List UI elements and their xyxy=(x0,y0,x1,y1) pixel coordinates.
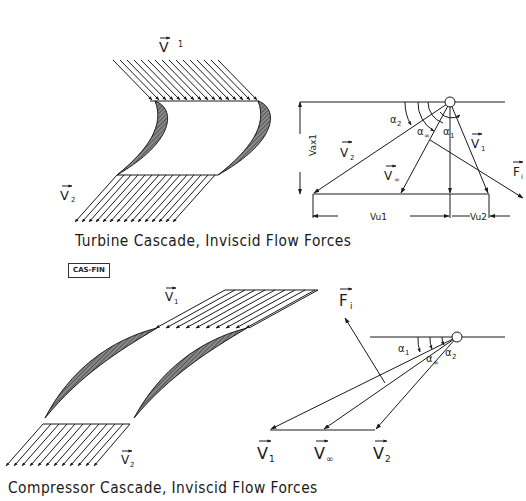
svg-text:2: 2 xyxy=(397,120,401,128)
svg-text:α: α xyxy=(390,114,397,125)
svg-text:∞: ∞ xyxy=(394,176,400,184)
svg-text:1: 1 xyxy=(405,349,409,357)
turbine-velocity-triangle xyxy=(300,102,523,218)
compressor-caption: Compressor Cascade, Inviscid Flow Forces xyxy=(8,479,318,497)
compressor-inlet-flow-lines xyxy=(156,290,318,328)
svg-text:1: 1 xyxy=(450,132,454,140)
cascade-diagram: V 1 V 2 xyxy=(0,0,526,501)
svg-text:α: α xyxy=(398,343,405,354)
turbine-outlet-flow-lines xyxy=(75,175,218,222)
compressor-cascade: V 1 V 2 F i α 1 α ∞ xyxy=(6,288,505,469)
compressor-pivot-point xyxy=(452,332,462,342)
svg-text:V: V xyxy=(471,137,480,151)
svg-text:V: V xyxy=(165,290,174,304)
compressor-blade-left xyxy=(45,328,157,418)
svg-text:V: V xyxy=(60,188,69,203)
svg-text:1: 1 xyxy=(178,40,183,49)
turbine-triangle-labels: Vax1 Vu1 Vu2 V 2 V ∞ V 1 F i α 2 α ∞ α 1 xyxy=(308,114,523,222)
compressor-outlet-label: V 2 xyxy=(121,451,134,469)
figure-tag: CAS-FIN xyxy=(68,263,110,278)
compressor-blade-right xyxy=(134,328,247,418)
svg-text:Vax1: Vax1 xyxy=(308,134,318,156)
turbine-inlet-label: V 1 xyxy=(159,38,183,55)
svg-text:i: i xyxy=(350,301,353,311)
svg-text:∞: ∞ xyxy=(424,132,430,140)
svg-text:2: 2 xyxy=(385,454,391,464)
svg-text:2: 2 xyxy=(350,154,354,162)
svg-text:V: V xyxy=(257,444,268,463)
svg-text:α: α xyxy=(443,126,450,137)
svg-text:2: 2 xyxy=(452,353,456,361)
svg-text:α: α xyxy=(445,347,452,358)
svg-text:1: 1 xyxy=(481,145,485,153)
turbine-outlet-label: V 2 xyxy=(60,186,75,204)
compressor-inlet-label: V 1 xyxy=(165,288,178,306)
svg-text:Vu1: Vu1 xyxy=(370,212,387,222)
turbine-pivot-point xyxy=(445,97,455,107)
svg-text:V: V xyxy=(159,39,169,55)
turbine-blade-left xyxy=(117,101,168,175)
svg-text:F: F xyxy=(339,292,348,310)
compressor-outlet-flow-lines xyxy=(6,424,130,466)
svg-text:1: 1 xyxy=(174,298,178,306)
compressor-velocity-triangle xyxy=(270,318,505,430)
svg-text:1: 1 xyxy=(269,454,275,464)
svg-text:V: V xyxy=(384,169,393,183)
svg-text:∞: ∞ xyxy=(433,359,439,367)
svg-text:V: V xyxy=(121,453,130,467)
svg-text:Vu2: Vu2 xyxy=(470,212,487,222)
svg-text:F: F xyxy=(513,165,520,179)
svg-text:2: 2 xyxy=(130,461,134,469)
svg-text:V: V xyxy=(314,444,325,463)
svg-text:α: α xyxy=(417,126,424,137)
turbine-caption: Turbine Cascade, Inviscid Flow Forces xyxy=(75,232,351,250)
svg-text:i: i xyxy=(521,173,523,181)
svg-text:V: V xyxy=(373,444,384,463)
svg-text:2: 2 xyxy=(71,196,75,204)
turbine-blade-right xyxy=(218,101,270,175)
svg-text:∞: ∞ xyxy=(326,454,334,464)
turbine-inlet-flow-lines xyxy=(113,60,259,101)
compressor-triangle-labels: F i α 1 α ∞ α 2 V 1 V ∞ V 2 xyxy=(257,289,456,464)
turbine-cascade: V 1 V 2 xyxy=(60,38,523,222)
svg-text:V: V xyxy=(340,146,349,160)
svg-text:α: α xyxy=(426,353,433,364)
